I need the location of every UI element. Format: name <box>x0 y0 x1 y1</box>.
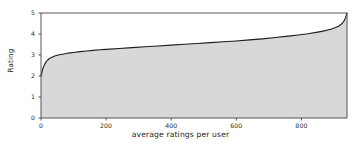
area-fill-group <box>41 13 347 118</box>
y-tick-label: 0 <box>23 115 35 121</box>
x-tick-label: 400 <box>160 123 182 129</box>
x-tick-label: 600 <box>225 123 247 129</box>
chart-figure: 012345 0200400600800 average ratings per… <box>0 0 361 147</box>
y-axis-label: Rating <box>6 38 15 84</box>
y-tick-label: 2 <box>23 73 35 79</box>
x-tick-label: 800 <box>290 123 312 129</box>
y-tick-label: 1 <box>23 94 35 100</box>
x-axis-label: average ratings per user <box>0 130 361 139</box>
y-tick-label: 5 <box>23 10 35 16</box>
y-tick-label: 4 <box>23 31 35 37</box>
x-tick-label: 0 <box>30 123 52 129</box>
y-tick-label: 3 <box>23 52 35 58</box>
area-fill <box>41 13 347 118</box>
x-tick-label: 200 <box>95 123 117 129</box>
